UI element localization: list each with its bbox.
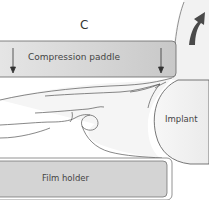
breast-tissue <box>0 78 172 158</box>
mammography-implant-displacement-diagram <box>0 0 209 200</box>
film-holder-label: Film holder <box>42 173 89 183</box>
panel-label: C <box>80 18 88 32</box>
compression-paddle-label: Compression paddle <box>28 52 120 62</box>
implant-label: Implant <box>165 114 197 124</box>
